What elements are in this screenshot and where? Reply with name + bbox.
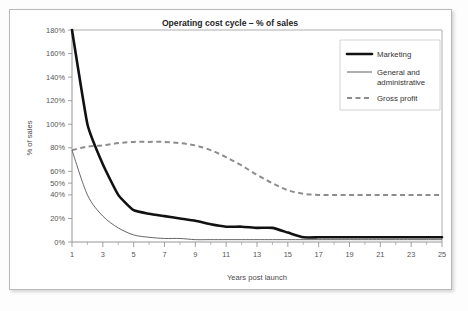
chart-title: Operating cost cycle – % of sales (162, 18, 298, 28)
x-tick-label: 21 (376, 250, 384, 259)
x-tick-label: 23 (407, 250, 415, 259)
y-tick-label: 180% (46, 26, 65, 35)
x-tick-label: 13 (253, 250, 261, 259)
x-tick-label: 9 (193, 250, 197, 259)
chart-card: Operating cost cycle – % of sales 180%16… (9, 9, 452, 290)
x-tick-label: 25 (438, 250, 446, 259)
y-tick-label: 120% (46, 96, 65, 105)
x-axis-title: Years post launch (227, 273, 287, 282)
x-tick-label: 3 (101, 250, 105, 259)
y-tick-label: 160% (46, 49, 65, 58)
legend-label-marketing: Marketing (377, 50, 411, 59)
x-tick-label: 11 (222, 250, 230, 259)
y-axis-title: % of sales (25, 120, 34, 155)
y-tick-label: 20% (50, 214, 65, 223)
x-tick-label: 15 (284, 250, 292, 259)
series-line-gross-profit (72, 142, 442, 195)
y-tick-label: 50% (50, 179, 65, 188)
y-tick-label: 140% (46, 73, 65, 82)
y-tick-label: 80% (50, 143, 65, 152)
x-tick-label: 19 (345, 250, 353, 259)
x-tick-label: 5 (132, 250, 136, 259)
y-tick-label: 60% (50, 167, 65, 176)
legend-label-general-administrative: General and (377, 68, 420, 77)
operating-cost-cycle-chart: Operating cost cycle – % of sales 180%16… (10, 10, 451, 289)
y-tick-label: 100% (46, 120, 65, 129)
legend-label-general-administrative-line2: administrative (377, 78, 425, 87)
chart-figure: Operating cost cycle – % of sales 180%16… (0, 0, 468, 311)
legend-label-gross-profit: Gross profit (377, 94, 418, 103)
x-tick-label: 1 (70, 250, 74, 259)
x-tick-label: 17 (315, 250, 323, 259)
y-tick-label: 40% (50, 190, 65, 199)
x-axis-ticks: 135791113151719212325 (70, 242, 446, 259)
y-axis-ticks: 180%160%140%120%100%80%60%50%40%20%0% (46, 26, 72, 247)
y-tick-label: 0% (54, 238, 65, 247)
chart-legend: Marketing General and administrative Gro… (340, 40, 440, 110)
x-tick-label: 7 (162, 250, 166, 259)
